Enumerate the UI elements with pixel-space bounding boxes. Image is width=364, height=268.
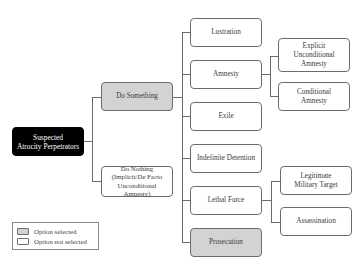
connector xyxy=(271,181,280,182)
node-do-something: Do Something xyxy=(101,82,173,111)
selected-swatch-icon xyxy=(17,228,29,235)
node-amnesty: Amnesty xyxy=(190,60,262,89)
root-label-line2: Atrocity Perpetrators xyxy=(17,142,79,151)
node-label: Indefinite Detention xyxy=(197,154,255,163)
node-label: Lustration xyxy=(211,28,241,37)
connector xyxy=(92,181,101,182)
node-assassination: Assassination xyxy=(280,207,352,236)
legend: Option selected Option not selected xyxy=(12,222,99,250)
connector xyxy=(270,56,278,57)
node-label: Do Something xyxy=(116,92,158,101)
node-lethal-force: Lethal Force xyxy=(190,186,262,215)
connector xyxy=(182,242,190,243)
legend-row-selected: Option selected xyxy=(17,226,94,236)
node-indefinite-detention: Indefinite Detention xyxy=(190,144,262,173)
node-label-line3: Unconditional Amnesty) xyxy=(104,182,170,199)
connector xyxy=(182,200,190,201)
node-label: Assassination xyxy=(296,217,336,226)
root-node-suspected-atrocity-perpetrators: Suspected Atrocity Perpetrators xyxy=(12,127,84,156)
connector xyxy=(270,96,278,97)
legend-row-not-selected: Option not selected xyxy=(17,236,94,246)
node-do-nothing: Do Nothing (Implicit/De Facto Unconditio… xyxy=(101,166,173,197)
connector xyxy=(182,158,190,159)
node-label-line1: Conditional xyxy=(297,88,331,97)
node-label-line2: Military Target xyxy=(294,181,337,190)
connector xyxy=(271,181,272,223)
node-label-line1: Explicit xyxy=(293,42,334,51)
node-label: Amnesty xyxy=(213,70,239,79)
connector xyxy=(182,32,190,33)
connector xyxy=(92,97,101,98)
connector xyxy=(92,97,93,182)
connector xyxy=(173,97,182,98)
node-prosecution: Prosecution xyxy=(190,228,262,257)
node-label-line2: (Implicit/De Facto xyxy=(104,173,170,181)
node-exile: Exile xyxy=(190,102,262,131)
node-label-line2: Amnesty xyxy=(297,97,331,106)
not-selected-swatch-icon xyxy=(17,238,29,245)
node-label-line3: Amnesty xyxy=(293,60,334,69)
node-label-line2: Unconditional xyxy=(293,51,334,60)
connector xyxy=(262,74,270,75)
connector xyxy=(84,141,92,142)
connector xyxy=(182,32,183,243)
node-label: Lethal Force xyxy=(208,196,245,205)
connector xyxy=(270,56,271,97)
node-label: Prosecution xyxy=(209,238,243,247)
node-lustration: Lustration xyxy=(190,18,262,47)
node-label: Exile xyxy=(218,112,233,121)
root-label-line1: Suspected xyxy=(17,133,79,142)
connector xyxy=(182,116,190,117)
connector xyxy=(182,74,190,75)
legend-selected-label: Option selected xyxy=(34,228,76,235)
node-explicit-unconditional-amnesty: Explicit Unconditional Amnesty xyxy=(278,38,350,72)
connector xyxy=(262,200,271,201)
node-conditional-amnesty: Conditional Amnesty xyxy=(278,82,350,111)
connector xyxy=(271,222,280,223)
node-legitimate-military-target: Legitimate Military Target xyxy=(280,166,352,195)
legend-not-selected-label: Option not selected xyxy=(34,238,87,245)
node-label-line1: Do Nothing xyxy=(104,165,170,173)
node-label-line1: Legitimate xyxy=(294,172,337,181)
